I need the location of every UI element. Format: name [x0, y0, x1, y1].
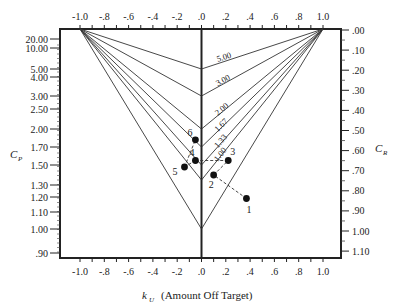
x-tick-label-bottom: .2: [222, 266, 230, 277]
y-left-tick-label: .90: [36, 248, 49, 259]
x-tick-label-bottom: -.4: [147, 266, 158, 277]
x-tick-label-top: -1.0: [72, 11, 88, 22]
x-tick-label-top: .2: [222, 11, 230, 22]
point-path-segment: [214, 175, 247, 199]
y-left-tick-label: 1.30: [31, 180, 49, 191]
x-tick-label-bottom: -.6: [123, 266, 134, 277]
y-left-tick-label: 1.00: [31, 224, 49, 235]
x-tick-label-bottom: -1.0: [72, 266, 88, 277]
x-axis-top: -1.0-.8-.6-.4-.2.0.2.4.6.81.0: [72, 11, 329, 29]
y-axis-right-title-subscript: R: [382, 149, 388, 157]
data-point-label: 6: [187, 127, 192, 138]
x-tick-label-top: .0: [198, 11, 206, 22]
y-left-tick-label: 1.20: [31, 192, 49, 203]
y-right-tick-label: 1.10: [352, 246, 370, 257]
x-axis-title: (Amount Off Target): [161, 289, 253, 302]
data-point: [243, 195, 250, 202]
x-tick-label-bottom: .6: [271, 266, 279, 277]
cpk-line-label: 5.00: [215, 50, 232, 64]
cpk-line-label: 3.00: [214, 72, 232, 88]
x-tick-label-top: .6: [271, 11, 279, 22]
x-tick-label-bottom: -.2: [172, 266, 183, 277]
data-point: [192, 157, 199, 164]
data-point-label: 2: [209, 179, 214, 190]
y-right-tick-label: .30: [352, 85, 365, 96]
y-left-tick-label: 2.50: [31, 104, 49, 115]
y-axis-right-title-symbol: C: [375, 142, 383, 154]
x-tick-label-top: .8: [295, 11, 303, 22]
y-right-tick-label: .50: [352, 125, 365, 136]
y-right-tick-label: .40: [352, 105, 365, 116]
x-tick-label-bottom: .4: [246, 266, 254, 277]
y-right-tick-label: .90: [352, 205, 365, 216]
data-point-label: 1: [246, 204, 251, 215]
y-left-tick-label: 1.10: [31, 207, 49, 218]
plot-frame: [60, 29, 341, 258]
y-axis-left-title-subscript: P: [17, 155, 23, 163]
x-tick-label-top: -.8: [99, 11, 110, 22]
y-right-tick-label: 1.00: [352, 226, 370, 237]
cp-cpk-chart: -1.0-.8-.6-.4-.2.0.2.4.6.81.0 -1.0-.8-.6…: [0, 0, 395, 307]
y-right-tick-label: .60: [352, 145, 365, 156]
data-point-label: 5: [172, 166, 177, 177]
y-left-tick-label: 4.00: [31, 72, 49, 83]
x-tick-label-bottom: 1.0: [317, 266, 330, 277]
y-left-tick-label: 1.50: [31, 160, 49, 171]
data-point-label: 4: [189, 147, 194, 158]
data-point-label: 3: [230, 146, 235, 157]
cpk-line-label: 2.00: [213, 100, 231, 117]
x-axis-bottom: -1.0-.8-.6-.4-.2.0.2.4.6.81.0: [72, 258, 329, 277]
x-tick-label-bottom: .8: [295, 266, 303, 277]
x-tick-label-top: -.4: [147, 11, 158, 22]
x-tick-label-top: .4: [246, 11, 254, 22]
x-tick-label-bottom: .0: [198, 266, 206, 277]
y-left-tick-label: 2.00: [31, 124, 49, 135]
y-right-tick-label: .20: [352, 65, 365, 76]
x-tick-label-bottom: -.8: [99, 266, 110, 277]
x-tick-label-top: 1.0: [317, 11, 330, 22]
x-axis-title-symbol: k: [142, 289, 148, 301]
x-tick-label-top: -.2: [172, 11, 183, 22]
data-point: [225, 157, 232, 164]
data-point: [181, 164, 188, 171]
cpk-line-label: 1.67: [212, 116, 230, 134]
x-tick-label-top: -.6: [123, 11, 134, 22]
y-axis-right-cr: .00.10.20.30.40.50.60.70.80.901.001.10: [341, 25, 370, 257]
y-axis-left-cp: 20.0010.005.004.003.002.502.001.701.501.…: [26, 34, 61, 259]
y-left-tick-label: 3.00: [31, 91, 49, 102]
y-right-tick-label: .80: [352, 185, 365, 196]
y-right-tick-label: .00: [352, 25, 365, 36]
data-point: [192, 136, 199, 143]
y-left-tick-label: 1.70: [31, 142, 49, 153]
y-left-tick-label: 10.00: [26, 43, 49, 54]
y-right-tick-label: .70: [352, 165, 365, 176]
data-point: [210, 172, 217, 179]
x-axis-title-subscript: U: [149, 296, 155, 304]
y-axis-left-title-symbol: C: [10, 148, 18, 160]
y-right-tick-label: .10: [352, 45, 365, 56]
